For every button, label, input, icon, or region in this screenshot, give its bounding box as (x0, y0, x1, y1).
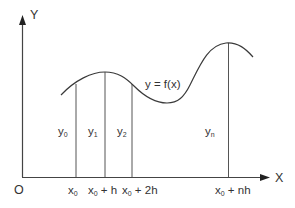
x-position-label-x0-plus-nh-suffix: + nh (225, 184, 251, 196)
ordinate-label-y0: y0 (58, 126, 68, 138)
origin-label: O (14, 184, 24, 197)
ordinate-label-y2-sub: 2 (123, 131, 127, 138)
y-axis-arrow-icon (19, 15, 26, 25)
ordinate-label-yn: yn (205, 126, 215, 138)
x-position-label-x0-plus-2h-suffix: + 2h (132, 184, 158, 196)
function-ordinates-diagram (0, 0, 295, 208)
ordinate-label-y1: y1 (88, 126, 98, 138)
ordinate-label-y1-sub: 1 (94, 131, 98, 138)
x-position-label-x0: x0 (68, 185, 78, 197)
x-position-label-x0-plus-nh: x0 + nh (215, 185, 251, 197)
y-axis-label: Y (30, 9, 38, 22)
ordinate-label-y2: y2 (117, 126, 127, 138)
curve-label: y = f(x) (145, 79, 180, 91)
function-curve (61, 43, 253, 103)
x-axis-arrow-icon (260, 174, 270, 181)
x-position-label-x0-plus-h: x0 + h (88, 185, 117, 197)
ordinate-label-yn-sub: n (211, 131, 215, 138)
x-axis-label: X (275, 172, 283, 185)
x-position-label-x0-plus-2h: x0 + 2h (122, 185, 158, 197)
x-position-label-x0-sub: 0 (74, 190, 78, 197)
x-position-label-x0-plus-h-suffix: + h (98, 184, 118, 196)
ordinate-label-y0-sub: 0 (64, 131, 68, 138)
